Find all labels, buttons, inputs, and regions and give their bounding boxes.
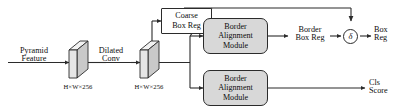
- bam-top-line2: Alignment: [218, 31, 253, 41]
- cls-score-line2: Score: [369, 87, 397, 95]
- bam-top-line1: Border: [224, 22, 246, 32]
- border-box-reg-line2: Box Reg: [295, 33, 324, 42]
- coarse-box-reg-line2: Box Reg: [172, 21, 201, 31]
- input-label-pyramid-feature: Pyramid Feature: [8, 47, 60, 64]
- bam-bottom-line1: Border: [224, 74, 246, 84]
- output-label-box-reg: Box Reg: [374, 26, 397, 43]
- bam-top-line3: Module: [223, 41, 248, 51]
- dilated-conv-line2: Conv: [102, 54, 120, 63]
- bam-bottom-line2: Alignment: [218, 83, 253, 93]
- delta-operation-node[interactable]: δ: [343, 29, 358, 44]
- block-border-alignment-module-top[interactable]: Border Alignment Module: [203, 18, 268, 54]
- pyramid-feature-line2: Feature: [22, 54, 47, 63]
- box-reg-line2: Reg: [374, 34, 397, 42]
- feature-cube-1: [66, 38, 90, 82]
- coarse-box-reg-line1: Coarse: [175, 11, 197, 21]
- intermediate-label-border-box-reg: Border Box Reg: [289, 26, 331, 43]
- op-label-dilated-conv: Dilated Conv: [91, 47, 131, 64]
- delta-symbol: δ: [349, 31, 353, 41]
- feature-cube-2: [137, 38, 161, 82]
- tensor-shape-1: H×W×256: [52, 84, 104, 91]
- tensor-shape-2: H×W×256: [123, 84, 175, 91]
- output-label-cls-score: Cls Score: [369, 79, 397, 96]
- bam-bottom-line3: Module: [223, 93, 248, 103]
- block-border-alignment-module-bottom[interactable]: Border Alignment Module: [203, 70, 268, 106]
- architecture-diagram: Pyramid Feature Dilated Conv H×W×256 H×W…: [0, 0, 397, 108]
